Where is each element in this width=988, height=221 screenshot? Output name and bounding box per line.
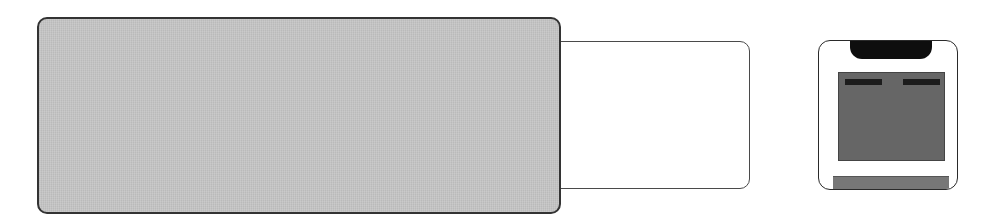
screen-indicator-right bbox=[903, 79, 940, 85]
device-icon bbox=[818, 40, 958, 190]
device-base-bar bbox=[833, 176, 949, 190]
device-top-pill bbox=[850, 40, 932, 59]
primary-panel bbox=[37, 17, 561, 214]
secondary-panel bbox=[552, 41, 750, 189]
screen-indicator-left bbox=[845, 79, 882, 85]
device-screen bbox=[838, 72, 945, 161]
